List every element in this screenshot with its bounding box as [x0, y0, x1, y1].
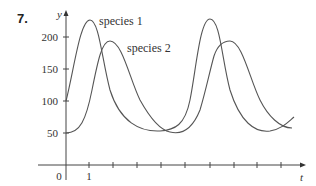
axes: [38, 14, 302, 180]
population-chart: 200 150 100 50 0 1 y t species 1 species…: [0, 0, 316, 186]
y-tick-150: 150: [42, 63, 59, 75]
species-1-label: species 1: [99, 14, 143, 28]
y-axis-arrow-icon: [64, 10, 69, 16]
species-1-curve: [66, 19, 294, 131]
y-axis-label: y: [56, 8, 62, 20]
y-tick-50: 50: [47, 127, 59, 139]
x-axis-arrow-icon: [300, 163, 306, 168]
y-tick-100: 100: [42, 95, 59, 107]
species-2-curve: [66, 41, 292, 133]
x-tick-1: 1: [86, 170, 92, 182]
x-tick-0: 0: [56, 170, 62, 182]
y-tick-200: 200: [42, 31, 59, 43]
x-axis-label: t: [300, 171, 304, 183]
species-2-label: species 2: [127, 41, 171, 55]
